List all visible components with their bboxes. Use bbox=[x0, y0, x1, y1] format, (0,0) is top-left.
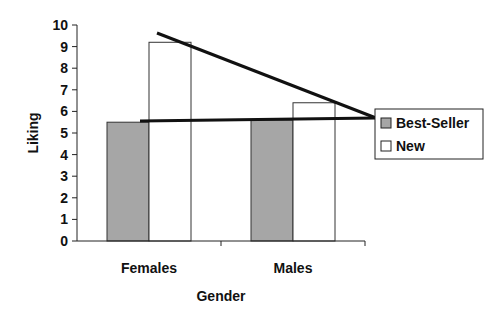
bar-new-males bbox=[293, 103, 335, 241]
x-tick-label: Females bbox=[121, 260, 177, 276]
y-tick-label: 2 bbox=[60, 190, 68, 206]
y-axis-title: Liking bbox=[25, 112, 41, 153]
legend-swatch bbox=[381, 141, 391, 151]
bar-best-seller-males bbox=[251, 120, 293, 241]
x-tick-label: Males bbox=[274, 260, 313, 276]
y-tick-label: 3 bbox=[60, 168, 68, 184]
y-tick-label: 7 bbox=[60, 82, 68, 98]
y-tick-label: 5 bbox=[60, 125, 68, 141]
legend: Best-SellerNew bbox=[375, 109, 483, 159]
y-tick-label: 10 bbox=[52, 17, 68, 33]
legend-label: New bbox=[396, 138, 425, 154]
y-tick-label: 8 bbox=[60, 60, 68, 76]
y-tick-label: 9 bbox=[60, 39, 68, 55]
legend-swatch bbox=[381, 118, 391, 128]
bar-best-seller-females bbox=[107, 122, 149, 241]
bar-chart: FemalesMales012345678910 Best-SellerNew … bbox=[0, 0, 499, 314]
y-tick-label: 0 bbox=[60, 233, 68, 249]
bar-new-females bbox=[149, 42, 191, 241]
bars bbox=[107, 42, 335, 241]
legend-label: Best-Seller bbox=[396, 115, 470, 131]
y-tick-label: 4 bbox=[60, 147, 68, 163]
y-tick-label: 6 bbox=[60, 103, 68, 119]
y-tick-label: 1 bbox=[60, 211, 68, 227]
x-axis-title: Gender bbox=[196, 288, 246, 304]
